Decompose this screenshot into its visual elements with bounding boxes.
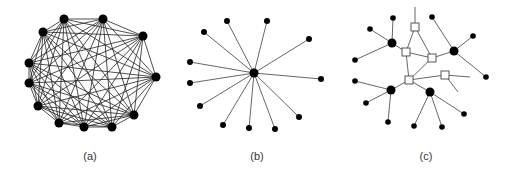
edge — [432, 17, 454, 51]
edge — [38, 32, 43, 106]
edge — [355, 43, 392, 60]
leaf-node — [470, 33, 476, 39]
edge — [388, 90, 391, 122]
edge — [409, 75, 445, 80]
edge — [254, 73, 275, 129]
leaf-node — [187, 80, 193, 86]
leaf-node — [306, 36, 312, 42]
edge — [254, 21, 267, 73]
hub-node — [387, 86, 396, 95]
node — [152, 73, 161, 82]
edge — [249, 73, 254, 128]
panel-label-c: (c) — [420, 150, 433, 162]
leaf-node — [363, 100, 369, 106]
leaf-node — [429, 14, 435, 20]
hub-node — [450, 47, 459, 56]
leaf-node — [461, 111, 467, 117]
leaf-node — [220, 122, 226, 128]
center-node — [250, 69, 259, 78]
edge — [227, 21, 254, 73]
panel-label-a: (a) — [83, 150, 96, 162]
node — [25, 79, 34, 88]
complete-graph-panel — [25, 15, 161, 132]
edge — [254, 73, 321, 79]
leaf-node — [385, 119, 391, 125]
leaf-node — [439, 124, 445, 130]
star-graph-panel — [187, 18, 324, 132]
edge — [430, 92, 464, 114]
router-square-node — [402, 48, 410, 56]
edge — [254, 73, 299, 117]
node — [55, 119, 64, 128]
node — [25, 59, 34, 68]
hub-node — [388, 39, 397, 48]
router-square-node — [441, 71, 449, 79]
node — [39, 28, 48, 37]
node — [108, 123, 117, 132]
edge — [103, 19, 156, 77]
router-square-node — [411, 23, 419, 31]
leaf-node — [201, 29, 207, 35]
panel-label-b: (b) — [250, 150, 263, 162]
node — [130, 111, 139, 120]
edge — [204, 32, 254, 73]
edge — [223, 73, 254, 125]
node — [34, 102, 43, 111]
edge — [190, 73, 254, 83]
edge — [143, 36, 156, 77]
node — [99, 15, 108, 24]
edge — [430, 92, 442, 127]
leaf-node — [352, 57, 358, 63]
edge — [200, 73, 254, 106]
leaf-node — [296, 114, 302, 120]
leaf-node — [411, 123, 417, 129]
edge — [414, 92, 430, 126]
leaf-node — [483, 74, 489, 80]
leaf-node — [224, 18, 230, 24]
leaf-node — [318, 76, 324, 82]
leaf-node — [187, 59, 193, 65]
leaf-node — [264, 18, 270, 24]
router-square-node — [405, 76, 413, 84]
edge — [254, 39, 309, 73]
edge — [190, 62, 254, 73]
router-square-node — [428, 54, 436, 62]
leaf-node — [272, 126, 278, 132]
edge — [415, 27, 432, 58]
network-topology-figure — [0, 0, 514, 173]
node — [80, 123, 89, 132]
edge — [355, 81, 391, 90]
leaf-node — [390, 15, 396, 21]
node — [139, 32, 148, 41]
leaf-node — [352, 78, 358, 84]
leaf-node — [197, 103, 203, 109]
leaf-node — [367, 26, 373, 32]
hybrid-graph-panel — [352, 7, 489, 130]
edge — [103, 19, 143, 36]
node — [60, 15, 69, 24]
leaf-node — [246, 125, 252, 131]
hub-node — [426, 88, 435, 97]
edge — [454, 51, 486, 77]
